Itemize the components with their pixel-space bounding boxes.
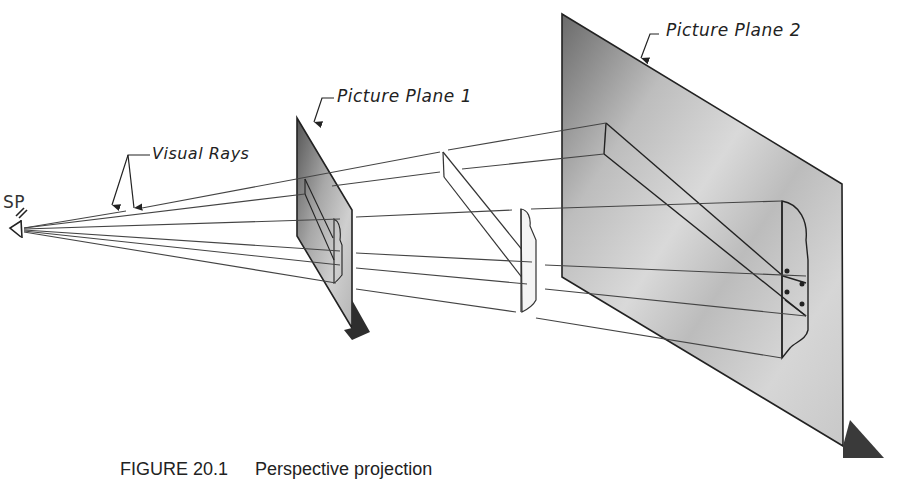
visual-rays-label: Visual Rays [152, 144, 249, 163]
picture-plane-2-label: Picture Plane 2 [666, 20, 801, 40]
picture-plane-1-label: Picture Plane 1 [337, 86, 472, 106]
eye-icon [10, 208, 27, 238]
picture-plane-2 [562, 14, 884, 458]
picture-plane-2-base-shadow [843, 420, 884, 458]
object-beam [443, 152, 536, 312]
figure-title: Perspective projection [255, 459, 432, 479]
figure-number: FIGURE 20.1 [120, 459, 228, 479]
picture-plane-1 [297, 118, 370, 340]
station-point-label: SP [3, 192, 25, 212]
figure-caption: FIGURE 20.1 Perspective projection [120, 459, 432, 480]
